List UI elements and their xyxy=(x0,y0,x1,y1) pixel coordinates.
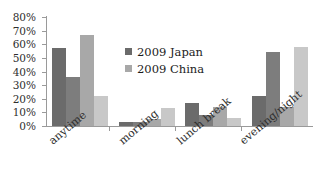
x-axis-line xyxy=(46,126,313,127)
bar xyxy=(52,48,66,126)
x-axis-tick xyxy=(175,127,176,131)
x-axis-tick xyxy=(241,127,242,131)
bar-chart: 80% 70% 60% 50% 40% 30% 20% 10% 0% anyti… xyxy=(0,0,320,192)
legend-item-japan: 2009 Japan xyxy=(125,43,204,60)
y-axis-label: 20% xyxy=(13,94,36,105)
legend-item-china: 2009 China xyxy=(125,60,204,77)
y-axis-label: 60% xyxy=(13,39,36,50)
x-axis-tick xyxy=(109,127,110,131)
bar xyxy=(227,118,241,126)
y-axis-label: 0% xyxy=(19,121,36,132)
legend: 2009 Japan 2009 China xyxy=(125,43,204,77)
bar xyxy=(94,96,108,126)
y-axis: 80% 70% 60% 50% 40% 30% 20% 10% 0% xyxy=(0,0,44,192)
y-axis-label: 70% xyxy=(13,26,36,37)
bar xyxy=(161,108,175,126)
y-axis-label: 50% xyxy=(13,53,36,64)
y-axis-label: 30% xyxy=(13,80,36,91)
y-axis-label: 80% xyxy=(13,12,36,23)
y-axis-label: 40% xyxy=(13,67,36,78)
y-axis-label: 10% xyxy=(13,107,36,118)
legend-label: 2009 China xyxy=(137,63,204,75)
legend-label: 2009 Japan xyxy=(137,46,203,58)
legend-swatch-icon xyxy=(125,65,132,72)
legend-swatch-icon xyxy=(125,48,132,55)
